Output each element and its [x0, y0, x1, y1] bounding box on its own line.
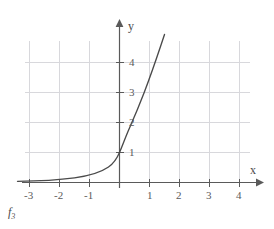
xtick-label-3: 3 — [206, 190, 212, 201]
figure-caption: f3 — [8, 206, 15, 221]
y-axis-label: y — [128, 20, 134, 32]
caption-subscript: 3 — [11, 212, 15, 221]
grid-lines — [25, 41, 250, 182]
xtick-label-2: 2 — [176, 190, 182, 201]
ytick-label-4: 4 — [129, 57, 135, 68]
x-axis-arrowhead — [256, 179, 264, 187]
xtick-label-1: 1 — [147, 190, 153, 201]
function-graph-figure: -3 -2 -1 1 2 3 4 1 2 3 4 y x f3 — [0, 0, 274, 229]
x-axis-label: x — [250, 164, 256, 176]
ytick-label-3: 3 — [129, 87, 135, 98]
y-axis-arrowhead — [116, 19, 124, 27]
xtick-label--2: -2 — [54, 190, 63, 201]
xtick-label-4: 4 — [236, 190, 242, 201]
tick-marks — [30, 63, 240, 187]
ytick-label-1: 1 — [129, 147, 135, 158]
xtick-label--1: -1 — [84, 190, 93, 201]
xtick-label--3: -3 — [24, 190, 33, 201]
ytick-label-2: 2 — [129, 117, 135, 128]
axes — [22, 19, 264, 188]
plot-canvas — [0, 0, 274, 229]
exponential-curve — [18, 35, 165, 182]
